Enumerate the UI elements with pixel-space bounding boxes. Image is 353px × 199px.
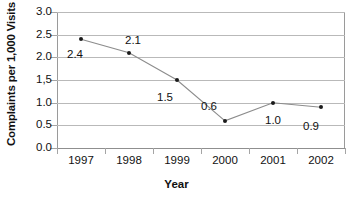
data-point-label: 2.1 — [125, 35, 141, 47]
data-point-marker — [127, 51, 131, 55]
data-point-marker — [175, 78, 179, 82]
data-point-marker — [271, 101, 275, 105]
data-point-marker — [319, 105, 323, 109]
data-point-label: 0.9 — [303, 121, 319, 133]
data-point-label: 2.4 — [67, 49, 83, 61]
data-point-label: 1.0 — [265, 115, 281, 127]
x-axis-title: Year — [0, 178, 353, 190]
data-point-marker — [223, 119, 227, 123]
series-line — [0, 0, 353, 199]
data-point-label: 0.6 — [201, 101, 217, 113]
data-point-marker — [79, 37, 83, 41]
line-chart: Complaints per 1,000 Visits 3.02.52.01,5… — [0, 0, 353, 199]
data-point-label: 1.5 — [157, 92, 173, 104]
